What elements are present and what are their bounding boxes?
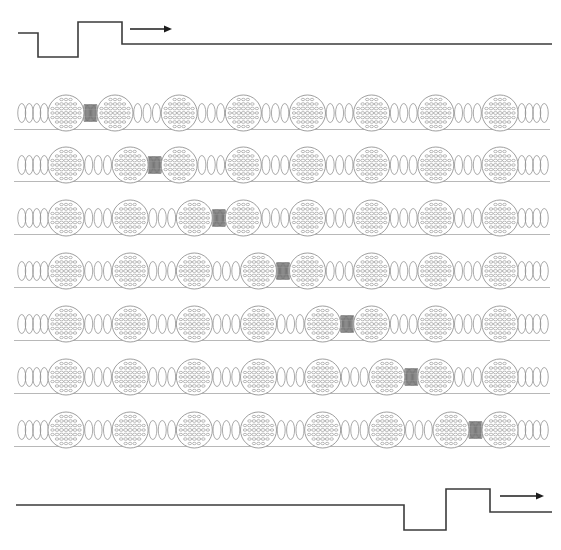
sphere-r7-m3 (176, 412, 212, 448)
spring-coil (18, 209, 26, 228)
spring-coil (464, 262, 472, 281)
top-waveform-group (18, 22, 552, 57)
spring-relaxed-r4-s7 (455, 262, 482, 281)
spring-coil (25, 156, 33, 175)
spring-coil (271, 156, 279, 175)
spring-relaxed-r1-s0 (18, 104, 49, 123)
spring-coil (213, 262, 221, 281)
spring-relaxed-r2-s5 (326, 156, 353, 175)
spring-coil (40, 368, 48, 387)
spring-coil (287, 421, 295, 440)
spring-coil (149, 315, 157, 334)
spring-coil (525, 104, 533, 123)
spring-coil (271, 104, 279, 123)
spring-coil (341, 421, 349, 440)
spring-coil (296, 421, 304, 440)
spring-coil (85, 368, 93, 387)
spring-relaxed-r4-s3 (213, 262, 240, 281)
spring-relaxed-r3-s7 (455, 209, 482, 228)
spring-coil (400, 315, 408, 334)
sphere-r2-m5 (290, 147, 326, 183)
spring-coil (277, 368, 285, 387)
spring-coil (213, 368, 221, 387)
sphere-r3-m6 (354, 200, 390, 236)
sphere-r3-m1 (48, 200, 84, 236)
spring-coil (390, 156, 398, 175)
spring-coil (149, 262, 157, 281)
spring-coil (326, 209, 334, 228)
wave-diagram-figure (0, 0, 561, 550)
spring-coil (232, 315, 240, 334)
spring-coil (18, 262, 26, 281)
spring-relaxed-r6-s5 (341, 368, 368, 387)
sphere-r4-m2 (112, 253, 148, 289)
sphere-r6-m1 (48, 359, 84, 395)
spring-relaxed-r7-s5 (341, 421, 368, 440)
spring-coil (158, 315, 166, 334)
spring-coil (149, 209, 157, 228)
spring-coil (281, 156, 289, 175)
spring-coil (473, 156, 481, 175)
sphere-r2-m7 (418, 147, 454, 183)
spring-coil (525, 209, 533, 228)
spring-compressed-r1-s1 (83, 104, 97, 121)
spring-relaxed-r2-s1 (85, 156, 112, 175)
sphere-r4-m8 (482, 253, 518, 289)
spring-coil (464, 156, 472, 175)
spring-coil (168, 262, 176, 281)
spring-coil (94, 156, 102, 175)
spring-coil (94, 315, 102, 334)
sphere-r4-m4 (241, 253, 277, 289)
spring-coil (262, 104, 270, 123)
spring-coil (103, 156, 111, 175)
spring-coil (103, 209, 111, 228)
spring-relaxed-r7-s6 (406, 421, 433, 440)
spring-coil (94, 209, 102, 228)
sphere-r5-m1 (48, 306, 84, 342)
spring-coil (464, 209, 472, 228)
sphere-r5-m8 (482, 306, 518, 342)
spring-compressed-r7-s7 (468, 421, 482, 438)
spring-relaxed-r2-s7 (455, 156, 482, 175)
spring-coil (222, 315, 230, 334)
spring-coil (424, 421, 432, 440)
spring-coil (518, 104, 526, 123)
sphere-r3-m2 (112, 200, 148, 236)
spring-coil (33, 209, 41, 228)
spring-coil (345, 156, 353, 175)
spring-relaxed-r4-s6 (390, 262, 417, 281)
sphere-r2-m1 (48, 147, 84, 183)
sphere-r5-m4 (241, 306, 277, 342)
spring-coil (533, 421, 541, 440)
spring-coil (409, 315, 417, 334)
spring-coil (390, 104, 398, 123)
spring-coil (400, 262, 408, 281)
spring-compressed-r3-s3 (212, 209, 226, 226)
spring-coil (345, 262, 353, 281)
spring-coil (525, 368, 533, 387)
spring-coil (351, 368, 359, 387)
chain-row-3 (14, 200, 550, 236)
spring-coil (455, 368, 463, 387)
spring-coil (351, 421, 359, 440)
spring-coil (296, 315, 304, 334)
spring-coil (40, 421, 48, 440)
spring-coil (222, 262, 230, 281)
sphere-r7-m1 (48, 412, 84, 448)
spring-coil (103, 315, 111, 334)
spring-coil (232, 421, 240, 440)
spring-coil (464, 104, 472, 123)
chain-row-5 (14, 306, 550, 342)
spring-coil (525, 262, 533, 281)
spring-compressed-r5-s5 (340, 315, 354, 332)
spring-coil (40, 315, 48, 334)
spring-coil (360, 421, 368, 440)
spring-coil (40, 156, 48, 175)
spring-relaxed-r4-s2 (149, 262, 176, 281)
spring-relaxed-r5-s6 (390, 315, 417, 334)
spring-coil (341, 368, 349, 387)
sphere-r1-m6 (354, 95, 390, 131)
spring-coil (222, 421, 230, 440)
spring-coil (533, 368, 541, 387)
spring-relaxed-r2-s4 (262, 156, 289, 175)
